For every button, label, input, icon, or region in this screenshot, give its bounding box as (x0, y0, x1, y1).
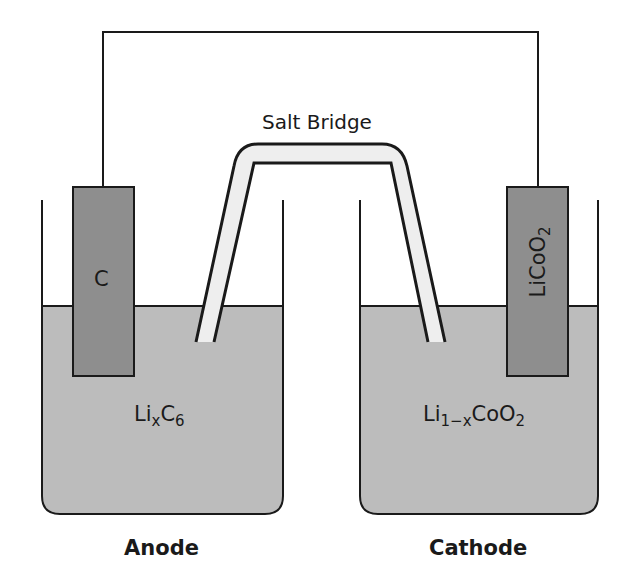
anode-formula-base: Li (134, 402, 152, 426)
cathode-electrode-formula-base: LiCoO (526, 236, 550, 298)
anode-label: Anode (124, 536, 199, 560)
anode-formula-mid: C (160, 402, 175, 426)
cathode-electrode-label: LiCoO2 (526, 214, 550, 310)
anode-formula-sub2: 6 (175, 412, 185, 430)
cathode-formula-sub1: 1−x (441, 412, 472, 430)
cathode-formula-mid: CoO (472, 402, 516, 426)
salt-bridge-label: Salt Bridge (262, 110, 372, 134)
anode-electrode-label: C (94, 267, 109, 291)
cathode-formula-base: Li (423, 402, 441, 426)
electrochemical-cell-diagram: Salt Bridge C LiCoO2 LixC6 Li1−xCoO2 Ano… (0, 0, 638, 581)
cathode-electrode-formula-sub: 2 (536, 226, 554, 236)
cathode-label: Cathode (429, 536, 527, 560)
cathode-formula-sub2: 2 (516, 412, 526, 430)
cathode-solution-label: Li1−xCoO2 (423, 402, 525, 426)
anode-solution-label: LixC6 (134, 402, 185, 426)
